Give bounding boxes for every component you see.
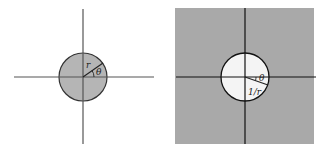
right-angle-arc <box>256 77 257 81</box>
left-radius-label: r <box>86 60 91 70</box>
right-panel: θ 1/r <box>175 8 316 144</box>
right-angle-label: θ <box>259 73 265 83</box>
left-panel: r θ <box>14 9 154 144</box>
right-radius-label: 1/r <box>248 87 262 97</box>
left-angle-label: θ <box>96 67 102 77</box>
diagram-canvas: r θ θ 1/r <box>0 0 328 151</box>
